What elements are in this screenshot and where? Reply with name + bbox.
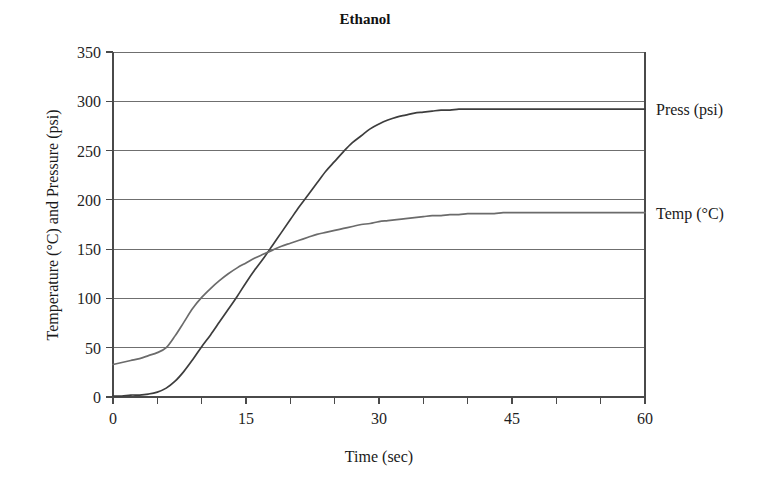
chart-figure: Ethanol 050100150200250300350 015304560 … [0, 0, 783, 478]
chart-background [0, 0, 783, 478]
chart-title: Ethanol [340, 11, 391, 27]
y-tick-label-0: 0 [93, 389, 101, 406]
x-tick-label-45: 45 [504, 410, 520, 427]
y-tick-label-300: 300 [77, 93, 101, 110]
x-tick-label-15: 15 [238, 410, 254, 427]
y-tick-label-100: 100 [77, 290, 101, 307]
x-axis-title: Time (sec) [345, 448, 413, 466]
series-label-1: Temp (°C) [656, 205, 724, 223]
series-label-0: Press (psi) [656, 101, 723, 119]
x-tick-label-30: 30 [371, 410, 387, 427]
x-tick-label-60: 60 [637, 410, 653, 427]
x-tick-label-0: 0 [109, 410, 117, 427]
y-tick-label-250: 250 [77, 143, 101, 160]
y-tick-label-150: 150 [77, 241, 101, 258]
y-tick-label-50: 50 [85, 340, 101, 357]
ethanol-line-chart: Ethanol 050100150200250300350 015304560 … [0, 0, 783, 478]
y-axis-title: Temperature (°C) and Pressure (psi) [44, 110, 62, 341]
y-tick-label-350: 350 [77, 44, 101, 61]
y-tick-label-200: 200 [77, 192, 101, 209]
